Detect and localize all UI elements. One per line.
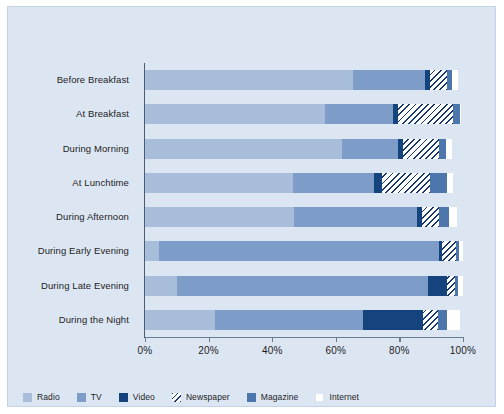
x-axis-tick-label: 100% [450,345,476,356]
x-axis-tick-label: 40% [262,345,283,356]
bar-segment-tv [353,70,425,90]
legend-label: TV [91,392,102,402]
bar-segment-newspaper [430,70,447,90]
bar-segment-radio [145,139,342,159]
y-axis-label: During Morning [63,144,129,154]
bar-row [145,173,463,193]
y-axis-label: At Breakfast [76,109,129,119]
legend-label: Newspaper [186,392,230,402]
chart-figure: Before BreakfastAt BreakfastDuring Morni… [7,6,496,407]
x-axis-tick-labels: 0%20%40%60%80%100% [8,345,497,359]
bar-row [145,241,463,261]
bar-segment-radio [145,70,353,90]
bar-segment-radio [145,241,159,261]
bar-segment-tv [325,104,393,124]
x-axis-tick-label: 20% [198,345,219,356]
x-axis-line [145,337,464,338]
legend-swatch-magazine-icon [247,393,256,402]
bar-segment-radio [145,207,294,227]
x-axis-tick-label: 0% [138,345,153,356]
legend-item-radio[interactable]: Radio [23,392,60,402]
legend-swatch-internet-icon [315,393,324,402]
legend-item-tv[interactable]: TV [77,392,102,402]
bar-segment-tv [177,276,428,296]
plot-area [145,63,463,337]
bar-segment-radio [145,276,177,296]
bar-segment-newspaper [447,276,455,296]
bar-segment-internet [446,139,452,159]
bar-row [145,310,463,330]
bar-row [145,104,463,124]
bar-segment-internet [460,104,462,124]
bar-segment-radio [145,310,215,330]
bar-segment-internet [458,276,463,296]
legend-label: Internet [329,392,359,402]
bar-row [145,139,463,159]
bar-segment-internet [459,241,463,261]
bar-segment-magazine [438,310,448,330]
y-axis-label: During Afternoon [56,212,129,222]
bar-segment-magazine [430,173,447,193]
bar-segment-newspaper [382,173,430,193]
bar-segment-radio [145,173,293,193]
y-axis-label: During Early Evening [38,246,129,256]
legend-swatch-newspaper-icon [172,393,181,402]
legend-swatch-video-icon [119,393,128,402]
bar-row [145,276,463,296]
y-axis-label: Before Breakfast [57,75,129,85]
bar-segment-magazine [439,207,449,227]
legend-label: Video [133,392,155,402]
bar-segment-internet [447,173,453,193]
y-axis-label: During Late Evening [41,281,129,291]
bar-segment-tv [159,241,439,261]
bar-row [145,207,463,227]
x-axis-tick [336,337,337,342]
x-axis-tick-label: 60% [325,345,346,356]
x-axis-tick [463,337,464,342]
x-axis-tick [399,337,400,342]
x-axis-tick [209,337,210,342]
y-axis-label: At Lunchtime [72,178,129,188]
bar-segment-radio [145,104,325,124]
bar-segment-video [374,173,382,193]
legend-label: Radio [37,392,60,402]
legend-label: Magazine [261,392,299,402]
x-axis-tick [272,337,273,342]
x-axis-tick-label: 80% [389,345,410,356]
legend-item-newspaper[interactable]: Newspaper [172,392,230,402]
bar-segment-tv [342,139,398,159]
y-axis-label: During the Night [59,315,129,325]
legend-item-video[interactable]: Video [119,392,155,402]
legend-item-internet[interactable]: Internet [315,392,359,402]
bar-segment-internet [449,207,457,227]
bar-segment-newspaper [398,104,454,124]
bar-segment-internet [452,70,458,90]
bar-segment-newspaper [403,139,440,159]
bar-row [145,70,463,90]
y-axis-category-labels: Before BreakfastAt BreakfastDuring Morni… [8,63,139,337]
legend-swatch-tv-icon [77,393,86,402]
bar-segment-video [428,276,447,296]
bar-segment-tv [294,207,416,227]
bar-segment-newspaper [423,310,437,330]
bar-segment-video [363,310,423,330]
bar-segment-tv [293,173,374,193]
x-axis-tick [145,337,146,342]
legend-swatch-radio-icon [23,393,32,402]
bar-segment-internet [447,310,460,330]
bar-segment-newspaper [422,207,439,227]
legend-item-magazine[interactable]: Magazine [247,392,299,402]
bar-segment-tv [215,310,363,330]
chart-legend: RadioTVVideoNewspaperMagazineInternet [23,390,376,404]
bar-segment-newspaper [442,241,456,261]
